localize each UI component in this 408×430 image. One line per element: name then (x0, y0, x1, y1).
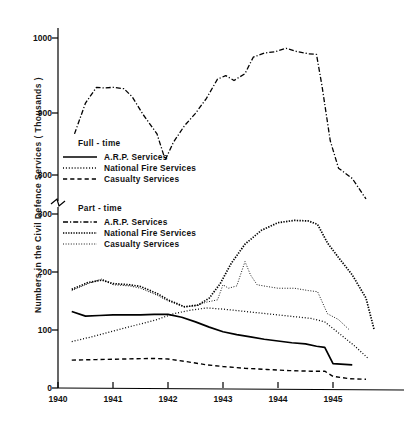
series-line-full-time-casualty-services (72, 358, 366, 379)
series-line-part-time-a-r-p-services (75, 48, 367, 199)
x-axis-spine (58, 388, 404, 390)
plot-canvas (0, 0, 408, 430)
series-line-part-time-national-fire-services (72, 220, 375, 330)
chart-figure: Numbers in the Civil Defence Services ( … (0, 0, 408, 430)
series-line-full-time-a-r-p-services (72, 311, 353, 364)
